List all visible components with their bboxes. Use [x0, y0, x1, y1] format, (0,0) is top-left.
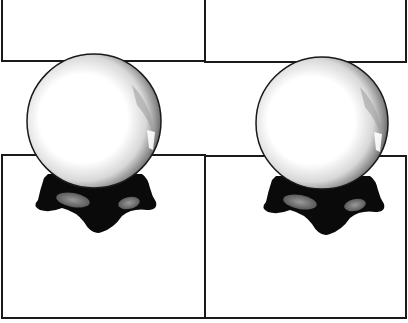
crystal-ball-right — [250, 52, 400, 242]
crystal-ball-icon — [250, 52, 400, 242]
crystal-ball-left — [22, 50, 172, 240]
crystal-ball-icon — [22, 50, 172, 240]
